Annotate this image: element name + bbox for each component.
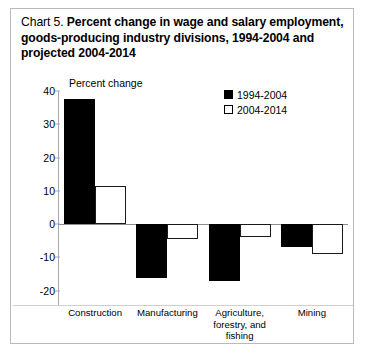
- y-tick-label: 0: [29, 218, 55, 230]
- x-axis-category-labels: ConstructionManufacturingAgriculture,for…: [59, 307, 348, 353]
- x-axis-label: Agriculture,forestry, andfishing: [204, 307, 276, 342]
- bar: [312, 224, 343, 254]
- bar: [136, 224, 167, 278]
- bar-group: [59, 67, 131, 305]
- x-axis-label-line: Agriculture,: [204, 307, 276, 319]
- bar: [240, 224, 271, 237]
- bottom-divider: [13, 305, 353, 306]
- x-axis-label-line: Manufacturing: [131, 307, 203, 319]
- bar-group: [204, 67, 276, 305]
- y-tick-label: 10: [29, 185, 55, 197]
- bars-layer: [59, 67, 348, 305]
- chart-title-main: Percent change in wage and salary employ…: [21, 15, 343, 60]
- x-axis-label: Construction: [59, 307, 131, 319]
- x-axis-label-line: Construction: [59, 307, 131, 319]
- chart-title: Chart 5. Percent change in wage and sala…: [21, 15, 347, 62]
- y-tick-label: 20: [29, 152, 55, 164]
- x-axis-label: Manufacturing: [131, 307, 203, 319]
- y-tick-label: 30: [29, 118, 55, 130]
- bar: [167, 224, 198, 239]
- bar: [95, 186, 126, 224]
- bar: [209, 224, 240, 281]
- plot-area: Percent change 403020100-10-20 1994-2004…: [11, 67, 355, 345]
- y-tick-label: 40: [29, 85, 55, 97]
- bar: [64, 99, 95, 224]
- y-tick-label: -10: [29, 251, 55, 263]
- x-axis-label-line: fishing: [204, 330, 276, 342]
- bar-group: [276, 67, 348, 305]
- x-axis-label-line: Mining: [276, 307, 348, 319]
- chart-title-prefix: Chart 5.: [21, 15, 67, 29]
- x-axis-label-line: forestry, and: [204, 319, 276, 331]
- chart-figure: Chart 5. Percent change in wage and sala…: [10, 8, 354, 344]
- x-axis-label: Mining: [276, 307, 348, 319]
- y-tick-label: -20: [29, 285, 55, 297]
- bar-group: [131, 67, 203, 305]
- bar: [281, 224, 312, 247]
